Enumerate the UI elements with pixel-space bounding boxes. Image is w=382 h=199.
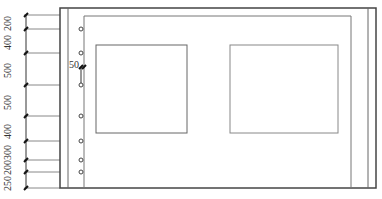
dimension-label-300: 300 xyxy=(3,145,13,160)
dimension-label-200-top: 200 xyxy=(3,16,13,31)
dimension-label-400-top: 400 xyxy=(3,35,13,50)
dimension-label-250: 250 xyxy=(3,176,13,191)
anchor-circles xyxy=(79,27,83,174)
dimension-label-500-a: 500 xyxy=(3,63,13,78)
offset-label: 50 xyxy=(69,60,79,70)
right-window xyxy=(230,45,338,133)
left-window xyxy=(96,45,187,133)
dimension-label-500-b: 500 xyxy=(3,95,13,110)
dimension-label-200-bottom: 200 xyxy=(3,160,13,175)
dimension-label-400-bottom: 400 xyxy=(3,124,13,139)
outer-frame xyxy=(60,8,376,188)
extension-lines xyxy=(24,15,60,188)
elevation-drawing: 200 400 500 500 400 300 200 250 50 xyxy=(0,0,382,199)
inner-panel xyxy=(84,16,351,188)
